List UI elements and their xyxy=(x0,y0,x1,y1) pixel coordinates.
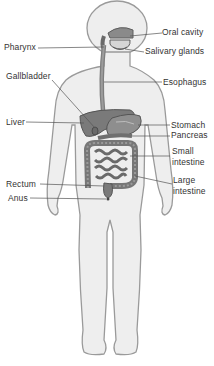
leader-pharynx xyxy=(38,47,104,48)
label-rectum: Rectum xyxy=(6,180,36,189)
label-oral-cavity: Oral cavity xyxy=(162,28,203,37)
label-esophagus: Esophagus xyxy=(163,78,206,87)
label-large-intestine-line2: intestine xyxy=(173,187,206,196)
label-stomach: Stomach xyxy=(171,121,205,130)
label-small-intestine-line2: intestine xyxy=(172,158,205,167)
anus-organ xyxy=(107,198,110,201)
label-pancreas: Pancreas xyxy=(171,131,208,140)
label-large-intestine-line1: Large xyxy=(173,176,195,185)
digestive-system-diagram: Oral cavity Pharynx Salivary glands Gall… xyxy=(0,0,214,366)
gallbladder-organ xyxy=(92,127,98,135)
label-gallbladder: Gallbladder xyxy=(6,72,51,81)
rectum-organ xyxy=(104,183,113,198)
label-liver: Liver xyxy=(6,118,25,127)
label-small-intestine-line1: Small xyxy=(172,147,194,156)
label-salivary-glands: Salivary glands xyxy=(145,47,204,56)
label-anus: Anus xyxy=(8,194,28,203)
label-pharynx: Pharynx xyxy=(4,43,36,52)
